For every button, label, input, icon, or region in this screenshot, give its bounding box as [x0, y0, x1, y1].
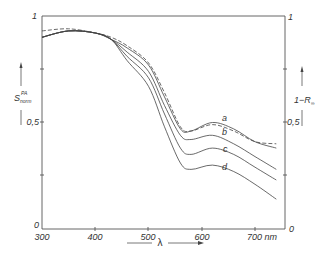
arrow-up-icon — [20, 62, 23, 68]
x-tick-500: 500 — [140, 232, 155, 242]
x-axis-label: λ — [127, 237, 204, 248]
y-tick-0-right: 0 — [289, 224, 294, 234]
svg-text:PA: PA — [21, 90, 28, 96]
y-tick-05-right: 0,5 — [287, 117, 301, 127]
x-tick-300: 300 — [34, 232, 49, 242]
y-tick-1-left: 1 — [32, 11, 37, 21]
svg-text:norm: norm — [20, 98, 31, 104]
curve-d — [42, 31, 276, 199]
y-tick-1-right: 1 — [288, 12, 293, 22]
x-tick-400: 400 — [87, 232, 102, 242]
y-axis-left-label: S PA norm — [14, 62, 31, 125]
curve-reflectance — [42, 29, 276, 144]
chart-canvas: 1 0,5 0 1 0,5 0 300 400 500 600 700 nm λ… — [0, 0, 323, 257]
curve-label-b: b — [222, 127, 227, 137]
curve-label-c: c — [223, 144, 228, 154]
x-tick-600: 600 — [194, 232, 209, 242]
y-tick-05-left: 0,5 — [26, 117, 40, 127]
svg-text:1−R: 1−R — [294, 95, 311, 105]
curve-c — [42, 31, 276, 180]
arrow-up-icon — [301, 66, 304, 72]
y-tick-0-left: 0 — [34, 220, 39, 230]
curves — [42, 29, 276, 199]
svg-text:∞: ∞ — [311, 100, 315, 106]
svg-text:λ: λ — [158, 237, 163, 248]
x-tick-700: 700 nm — [247, 232, 278, 242]
curve-a — [42, 31, 276, 148]
curve-label-d: d — [222, 162, 228, 172]
curve-label-a: a — [222, 113, 227, 123]
